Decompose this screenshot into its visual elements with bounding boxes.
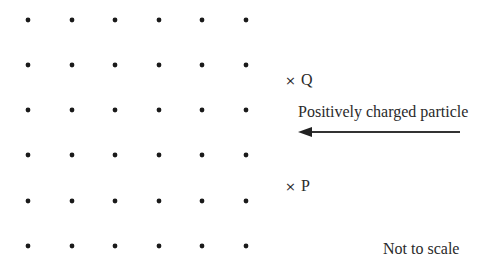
field-dot-icon [70,199,75,204]
field-dot-icon [200,244,205,249]
point-q-label: Q [301,71,313,88]
field-dot-icon [70,108,75,113]
field-dot-icon [26,199,31,204]
particle-velocity-arrow [298,127,460,137]
field-dot-icon [157,18,162,23]
field-dot-icon [113,63,118,68]
field-dot-icon [244,63,249,68]
point-p-label: P [301,177,310,194]
field-dot-icon [113,244,118,249]
magnetic-field-diagram [0,0,495,257]
field-dot-icon [26,108,31,113]
field-dot-icon [70,18,75,23]
field-dot-icon [70,153,75,158]
field-dot-icon [200,153,205,158]
point-q: ×Q [285,72,312,88]
field-dot-icon [26,63,31,68]
field-dot-icon [113,18,118,23]
field-dot-icon [157,108,162,113]
field-dot-icon [26,244,31,249]
field-dot-icon [244,153,249,158]
cross-marker-icon: × [285,73,296,88]
field-dot-icon [200,63,205,68]
field-dot-icon [244,108,249,113]
field-dot-icon [200,18,205,23]
field-dot-icon [157,63,162,68]
field-dot-icon [113,199,118,204]
field-dot-icon [70,244,75,249]
field-dot-icon [157,199,162,204]
arrowhead-left-icon [298,127,312,137]
field-dot-icon [70,63,75,68]
field-dot-grid [26,18,249,249]
field-dot-icon [200,108,205,113]
field-dot-icon [200,199,205,204]
point-p: ×P [285,178,310,194]
field-dot-icon [244,199,249,204]
field-dot-icon [157,244,162,249]
cross-marker-icon: × [285,179,296,194]
field-dot-icon [244,244,249,249]
field-dot-icon [26,18,31,23]
field-dot-icon [26,153,31,158]
field-dot-icon [113,153,118,158]
particle-label: Positively charged particle [298,104,468,120]
field-dot-icon [157,153,162,158]
field-dot-icon [113,108,118,113]
field-dot-icon [244,18,249,23]
not-to-scale-note: Not to scale [383,241,459,257]
